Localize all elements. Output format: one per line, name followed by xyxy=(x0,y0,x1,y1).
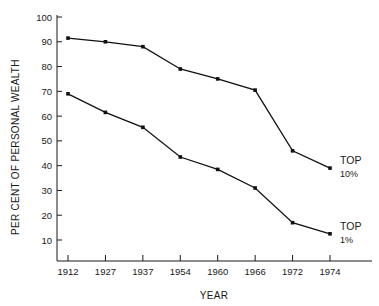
line-chart: 100908070605040302010 191219271937195419… xyxy=(0,0,379,306)
data-point-marker xyxy=(179,67,183,71)
x-axis-ticks: 19121927193719541960196619721974 xyxy=(57,255,340,277)
series-labels-group: TOP10%TOP1% xyxy=(340,154,361,245)
x-tick-label: 1966 xyxy=(245,266,266,277)
data-point-marker xyxy=(104,40,108,44)
x-tick-label: 1954 xyxy=(170,266,191,277)
y-tick-label: 90 xyxy=(41,36,52,47)
data-point-marker xyxy=(66,92,70,96)
y-tick-label: 60 xyxy=(41,111,52,122)
series-label-percent: 10% xyxy=(340,169,358,179)
data-point-marker xyxy=(253,186,257,190)
x-tick-label: 1927 xyxy=(95,266,116,277)
y-axis-ticks: 100908070605040302010 xyxy=(36,12,62,246)
series-line xyxy=(68,38,330,168)
x-axis-group: 19121927193719541960196619721974 xyxy=(57,255,372,277)
series-group xyxy=(66,36,332,235)
x-tick-label: 1972 xyxy=(282,266,303,277)
y-tick-label: 50 xyxy=(41,135,52,146)
data-point-marker xyxy=(328,166,332,170)
y-tick-label: 20 xyxy=(41,210,52,221)
series-label-percent: 1% xyxy=(340,235,353,245)
y-tick-label: 30 xyxy=(41,185,52,196)
x-tick-label: 1937 xyxy=(132,266,153,277)
data-point-marker xyxy=(291,221,295,225)
y-tick-label: 10 xyxy=(41,235,52,246)
x-tick-label: 1960 xyxy=(207,266,228,277)
x-tick-label: 1912 xyxy=(57,266,78,277)
series-line xyxy=(68,94,330,234)
data-point-marker xyxy=(141,45,145,49)
series-label-name: TOP xyxy=(340,220,361,232)
data-point-marker xyxy=(179,155,183,159)
x-axis-title: YEAR xyxy=(200,290,228,301)
data-point-marker xyxy=(253,88,257,92)
chart-container: 100908070605040302010 191219271937195419… xyxy=(0,0,379,306)
data-point-marker xyxy=(216,77,220,81)
y-axis-group: 100908070605040302010 xyxy=(36,12,62,262)
data-point-marker xyxy=(66,36,70,40)
y-axis-title: PER CENT OF PERSONAL WEALTH xyxy=(10,59,21,235)
y-tick-label: 80 xyxy=(41,61,52,72)
data-point-marker xyxy=(104,111,108,115)
y-tick-label: 100 xyxy=(36,12,52,23)
x-tick-label: 1974 xyxy=(319,266,340,277)
y-tick-label: 40 xyxy=(41,160,52,171)
data-point-marker xyxy=(216,168,220,172)
series-label-name: TOP xyxy=(340,154,361,166)
data-point-marker xyxy=(291,149,295,153)
data-point-marker xyxy=(141,126,145,130)
data-point-marker xyxy=(328,232,332,236)
y-tick-label: 70 xyxy=(41,86,52,97)
